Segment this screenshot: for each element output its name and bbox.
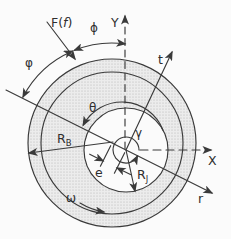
journal-radius-label: RJ: [137, 167, 148, 184]
phi-angle-arc: [75, 43, 126, 50]
force-label: F(f): [51, 15, 72, 30]
journal-bearing-diagram: F(f) ϕ φ Y t θ γ RB X e RJ r ω: [0, 0, 231, 239]
eccentricity-label: e: [95, 165, 103, 180]
x-axis-label: X: [208, 153, 217, 168]
eccentricity-dim-arrow-left: [90, 154, 103, 161]
y-axis-label: Y: [110, 15, 119, 30]
journal-radius-arrow: [126, 150, 135, 191]
t-axis-label: t: [158, 52, 163, 67]
gamma-label: γ: [135, 126, 142, 140]
eccentricity-tick-bearing-center: [100, 146, 110, 167]
r-axis-label: r: [198, 191, 204, 206]
eccentricity-dim-arrow-right: [117, 168, 130, 175]
diagram-canvas: F(f) ϕ φ Y t θ γ RB X e RJ r ω: [0, 0, 231, 239]
theta-label: θ: [89, 101, 96, 115]
omega-label: ω: [66, 191, 76, 205]
varphi-label: φ: [25, 56, 33, 70]
phi-label: ϕ: [90, 21, 98, 35]
